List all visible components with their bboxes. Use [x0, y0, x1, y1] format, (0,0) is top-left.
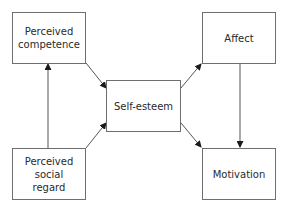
- node-motivation: Motivation: [202, 148, 276, 200]
- node-perceived-social-regard: Perceived social regard: [12, 148, 86, 200]
- edge-social-regard-to-self-esteem: [86, 123, 106, 148]
- node-label: Self-esteem: [114, 100, 173, 113]
- edge-competence-to-self-esteem: [86, 63, 106, 88]
- node-self-esteem: Self-esteem: [106, 80, 181, 132]
- node-label: Motivation: [213, 168, 266, 181]
- node-affect: Affect: [202, 12, 276, 64]
- node-label: Perceived competence: [18, 25, 80, 51]
- edge-self-esteem-to-motivation: [181, 123, 201, 147]
- node-label: Perceived social regard: [25, 155, 74, 194]
- node-perceived-competence: Perceived competence: [12, 12, 86, 64]
- edge-self-esteem-to-affect: [181, 64, 201, 88]
- node-label: Affect: [224, 32, 253, 45]
- path-diagram: Perceived competence Perceived social re…: [0, 0, 288, 215]
